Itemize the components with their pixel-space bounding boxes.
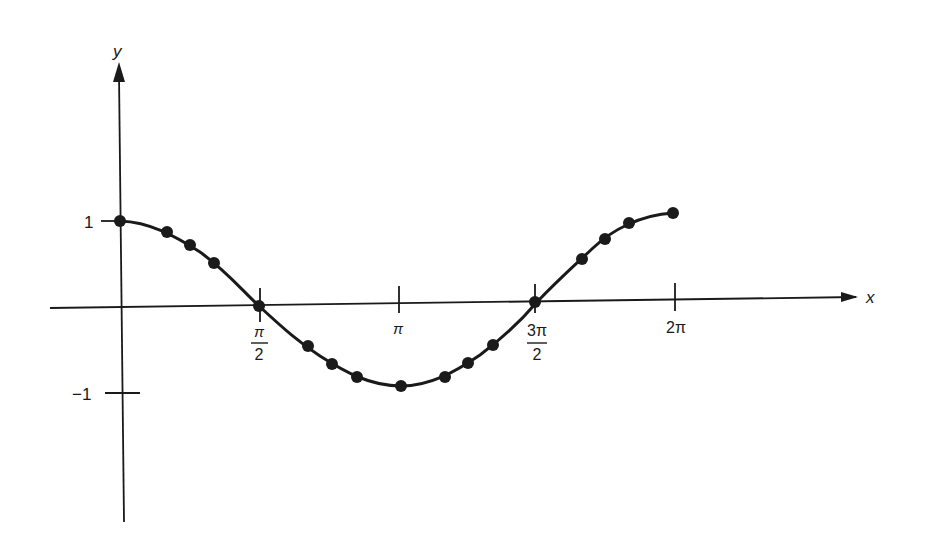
data-point [576, 253, 588, 265]
data-point [114, 215, 126, 227]
data-point [623, 217, 635, 229]
y-axis [113, 62, 125, 522]
data-point [599, 233, 611, 245]
y-tick-label-neg1: −1 [72, 385, 91, 404]
cosine-curve [120, 213, 673, 386]
data-point [667, 207, 679, 219]
y-tick-1: 1 [84, 213, 119, 232]
data-point [326, 358, 338, 370]
data-points [114, 207, 679, 392]
svg-text:2: 2 [533, 346, 542, 363]
svg-text:3π: 3π [527, 322, 547, 339]
x-axis-arrow-icon [841, 292, 858, 302]
x-tick-2pi: 2π [666, 283, 686, 336]
data-point [208, 257, 220, 269]
data-point [395, 380, 407, 392]
data-point [439, 371, 451, 383]
data-point [529, 296, 541, 308]
cosine-chart: y x 1 −1 π 2 π 3π 2 2π [0, 0, 925, 558]
y-axis-label: y [112, 42, 123, 61]
data-point [302, 340, 314, 352]
data-point [462, 357, 474, 369]
y-axis-arrow-icon [113, 62, 125, 82]
svg-text:π: π [393, 320, 404, 337]
y-tick-neg1: −1 [72, 385, 140, 404]
x-axis-label: x [865, 288, 875, 307]
data-point [487, 339, 499, 351]
svg-text:2π: 2π [666, 319, 686, 336]
data-point [253, 300, 265, 312]
y-tick-label-1: 1 [84, 213, 93, 232]
svg-text:π: π [254, 323, 265, 340]
data-point [161, 226, 173, 238]
data-point [351, 371, 363, 383]
data-point [184, 239, 196, 251]
x-tick-pi: π [393, 286, 404, 337]
svg-text:2: 2 [255, 346, 264, 363]
x-axis [50, 292, 858, 308]
